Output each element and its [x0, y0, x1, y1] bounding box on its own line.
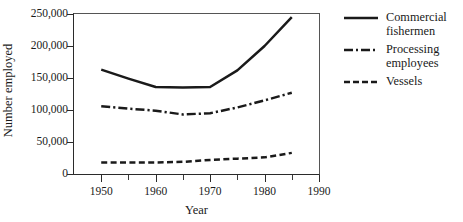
y-axis-tick-mark — [67, 14, 73, 15]
x-axis-tick-label: 1980 — [237, 185, 293, 197]
legend-item-vessels: Vessels — [343, 75, 463, 89]
y-axis-tick-labels: 050,000100,000150,000200,000250,000 — [14, 0, 68, 222]
x-axis-tick-label: 1970 — [182, 185, 238, 197]
series-line-processing-employees — [101, 93, 292, 115]
legend-item-commercial-fishermen: Commercialfishermen — [343, 11, 463, 38]
y-axis-tick-mark — [67, 142, 73, 143]
legend-swatch-solid-icon — [343, 11, 379, 25]
y-axis-tick-mark — [67, 78, 73, 79]
x-axis-tick-mark — [319, 175, 320, 182]
x-axis-tick-mark — [210, 175, 211, 182]
x-axis-tick-label: 1950 — [73, 185, 129, 197]
legend-label-processing-employees: Processingemployees — [386, 43, 439, 70]
legend-label-line1: Vessels — [386, 74, 422, 88]
x-axis-minor-tick-mark — [128, 175, 129, 180]
series-canvas — [74, 14, 319, 174]
legend-label-line2: fishermen — [386, 24, 435, 38]
legend-label-commercial-fishermen: Commercialfishermen — [386, 11, 447, 38]
x-axis-title: Year — [73, 203, 320, 218]
y-axis-tick-label: 150,000 — [31, 72, 68, 84]
x-axis-tick-label: 1960 — [128, 185, 184, 197]
x-axis-tick-label: 1990 — [291, 185, 347, 197]
legend-swatch-dashed-icon — [343, 75, 379, 89]
legend-label-line1: Processing — [386, 42, 439, 56]
series-line-vessels — [101, 153, 292, 163]
y-axis-tick-mark — [67, 110, 73, 111]
x-axis-minor-tick-mark — [237, 175, 238, 180]
legend-label-line1: Commercial — [386, 10, 447, 24]
chart-container: Number employed 050,000100,000150,000200… — [0, 0, 463, 222]
x-axis-tick-mark — [101, 175, 102, 182]
y-axis-tick-mark — [67, 174, 73, 175]
legend-label-line2: employees — [386, 56, 439, 70]
legend-label-vessels: Vessels — [386, 75, 422, 89]
x-axis-tick-mark — [265, 175, 266, 182]
y-axis-tick-mark — [67, 46, 73, 47]
chart-legend: Commercialfishermen Processingemployees … — [343, 11, 463, 94]
y-axis-tick-label: 250,000 — [31, 8, 68, 20]
y-axis-tick-label: 50,000 — [36, 136, 68, 148]
legend-item-processing-employees: Processingemployees — [343, 43, 463, 70]
y-axis-tick-label: 200,000 — [31, 40, 68, 52]
series-line-commercial-fishermen — [101, 17, 292, 87]
legend-swatch-dash-dot-icon — [343, 43, 379, 57]
y-axis-tick-label: 100,000 — [31, 104, 68, 116]
x-axis-tick-mark — [156, 175, 157, 182]
plot-area — [73, 13, 320, 175]
x-axis-minor-tick-mark — [183, 175, 184, 180]
x-axis-minor-tick-mark — [292, 175, 293, 180]
